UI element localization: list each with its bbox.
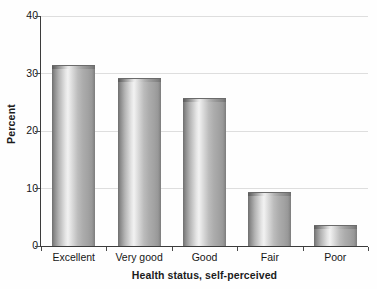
y-tick-label-0: 0 — [8, 240, 38, 251]
y-tick-label-20: 20 — [8, 125, 38, 136]
bar-fair[interactable] — [248, 192, 291, 246]
bar-very-good[interactable] — [118, 78, 161, 246]
y-axis-title-label: Percent — [5, 104, 17, 144]
bar-excellent[interactable] — [52, 65, 95, 246]
bar-chart-figure: Percent 010203040 ExcellentVery goodGood… — [0, 0, 377, 289]
x-tick-mark — [172, 247, 173, 251]
y-tick-label-10: 10 — [8, 183, 38, 194]
x-tick-label-very-good: Very good — [106, 252, 171, 264]
x-axis-title: Health status, self-perceived — [41, 269, 368, 281]
x-tick-label-fair: Fair — [237, 252, 302, 264]
x-tick-mark — [368, 247, 369, 251]
bar-slot — [41, 16, 106, 246]
x-tick-mark — [41, 247, 42, 251]
bar-slot — [172, 16, 237, 246]
x-tick-mark — [106, 247, 107, 251]
bar-good[interactable] — [183, 98, 226, 246]
bar-slot — [237, 16, 302, 246]
x-axis-line — [40, 246, 368, 247]
bar-slot — [303, 16, 368, 246]
x-tick-label-poor: Poor — [303, 252, 368, 264]
y-tick-label-40: 40 — [8, 10, 38, 21]
x-tick-label-excellent: Excellent — [41, 252, 106, 264]
bar-poor[interactable] — [314, 225, 357, 246]
x-tick-label-good: Good — [172, 252, 237, 264]
plot-area — [41, 16, 368, 246]
y-tick-label-30: 30 — [8, 68, 38, 79]
x-tick-mark — [303, 247, 304, 251]
y-axis-title: Percent — [0, 0, 22, 247]
x-tick-mark — [237, 247, 238, 251]
bar-slot — [106, 16, 171, 246]
